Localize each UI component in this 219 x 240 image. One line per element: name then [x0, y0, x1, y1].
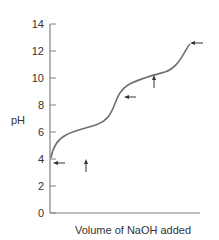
- tick-0: 0: [38, 207, 44, 219]
- arrow-eq-2-icon: [190, 41, 203, 45]
- x-axis-label: Volume of NaOH added: [75, 224, 191, 236]
- arrow-start-icon: [53, 161, 65, 165]
- arrow-half-eq-1-icon: [84, 159, 88, 172]
- tick-6: 6: [38, 126, 44, 138]
- tick-14: 14: [32, 18, 44, 30]
- tick-2: 2: [38, 180, 44, 192]
- tick-10: 10: [32, 72, 44, 84]
- titration-chart: 0 2 4 6 8 10 12 14 pH Volume of NaOH add…: [0, 0, 219, 240]
- tick-8: 8: [38, 99, 44, 111]
- y-axis-label: pH: [11, 114, 25, 126]
- titration-curve: [51, 44, 190, 158]
- y-ticks: [50, 24, 56, 213]
- arrow-half-eq-2-icon: [152, 75, 156, 88]
- tick-12: 12: [32, 45, 44, 57]
- tick-4: 4: [38, 153, 44, 165]
- y-tick-labels: 0 2 4 6 8 10 12 14: [32, 18, 44, 219]
- arrow-eq-1-icon: [124, 95, 136, 99]
